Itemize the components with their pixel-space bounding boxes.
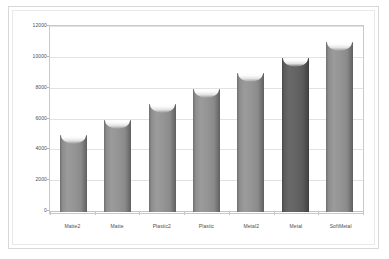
x-axis-tick-marks: [50, 212, 363, 215]
bar[interactable]: [326, 42, 353, 212]
bar-gloss-highlight: [61, 135, 86, 144]
bar-slot: [184, 27, 228, 212]
bar-slot: [51, 27, 95, 212]
y-axis-tick-label: 8000: [13, 84, 47, 90]
bar-slot: [140, 27, 184, 212]
bar[interactable]: [60, 135, 87, 212]
x-axis-tick-label: Matte: [95, 220, 140, 232]
x-axis-tick-label: Matte2: [50, 220, 95, 232]
bar-gloss-highlight: [105, 120, 130, 129]
bars-layer: [51, 27, 362, 212]
plot-area: [49, 25, 364, 214]
bar[interactable]: [193, 89, 220, 212]
chart-panel: 020004000600080001000012000 Matte2MatteP…: [8, 6, 379, 249]
bar-slot: [95, 27, 139, 212]
y-axis-tick-label: 6000: [13, 115, 47, 121]
bar-gloss-highlight: [238, 73, 263, 82]
y-axis-tick-label: 12000: [13, 22, 47, 28]
bar-slot: [229, 27, 273, 212]
y-axis-labels: 020004000600080001000012000: [13, 25, 47, 214]
bar-slot: [273, 27, 317, 212]
x-axis-tick-mark: [50, 212, 51, 215]
y-axis-tick-label: 4000: [13, 145, 47, 151]
x-axis-tick-mark: [95, 212, 96, 215]
x-axis-tick-label: Metal: [274, 220, 319, 232]
x-axis-tick-mark: [274, 212, 275, 215]
bar-gloss-highlight: [194, 89, 219, 98]
x-axis-tick-mark: [318, 212, 319, 215]
x-axis-tick-label: Plastic: [184, 220, 229, 232]
x-axis-tick-mark: [139, 212, 140, 215]
chart-panel-inner: 020004000600080001000012000 Matte2MatteP…: [12, 10, 375, 245]
bar-gloss-highlight: [327, 42, 352, 51]
x-axis-tick-mark: [229, 212, 230, 215]
x-axis-labels: Matte2MattePlastic2PlasticMetal2MetalSof…: [50, 220, 363, 232]
bar-slot: [318, 27, 362, 212]
bar[interactable]: [104, 120, 131, 213]
x-axis-tick-mark: [363, 212, 364, 215]
bar-gloss-highlight: [283, 58, 308, 67]
x-axis-tick-mark: [184, 212, 185, 215]
x-axis-tick-label: Metal2: [229, 220, 274, 232]
bar[interactable]: [149, 104, 176, 212]
x-axis-tick-label: SoftMetal: [318, 220, 363, 232]
y-axis-tick-label: 2000: [13, 176, 47, 182]
bar[interactable]: [237, 73, 264, 212]
x-axis-tick-label: Plastic2: [139, 220, 184, 232]
bar-gloss-highlight: [150, 104, 175, 113]
y-axis-tick-label: 0: [13, 207, 47, 213]
bar[interactable]: [282, 58, 309, 212]
y-axis-tick-label: 10000: [13, 53, 47, 59]
